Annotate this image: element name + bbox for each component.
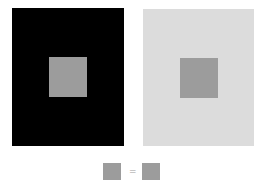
light-background-panel bbox=[143, 9, 254, 146]
dark-background-panel bbox=[12, 8, 124, 146]
gray-square-on-dark bbox=[49, 57, 87, 97]
comparison-square-left bbox=[103, 163, 121, 180]
equals-sign: = bbox=[129, 167, 137, 176]
gray-square-on-light bbox=[180, 58, 218, 98]
comparison-square-right bbox=[142, 163, 160, 180]
